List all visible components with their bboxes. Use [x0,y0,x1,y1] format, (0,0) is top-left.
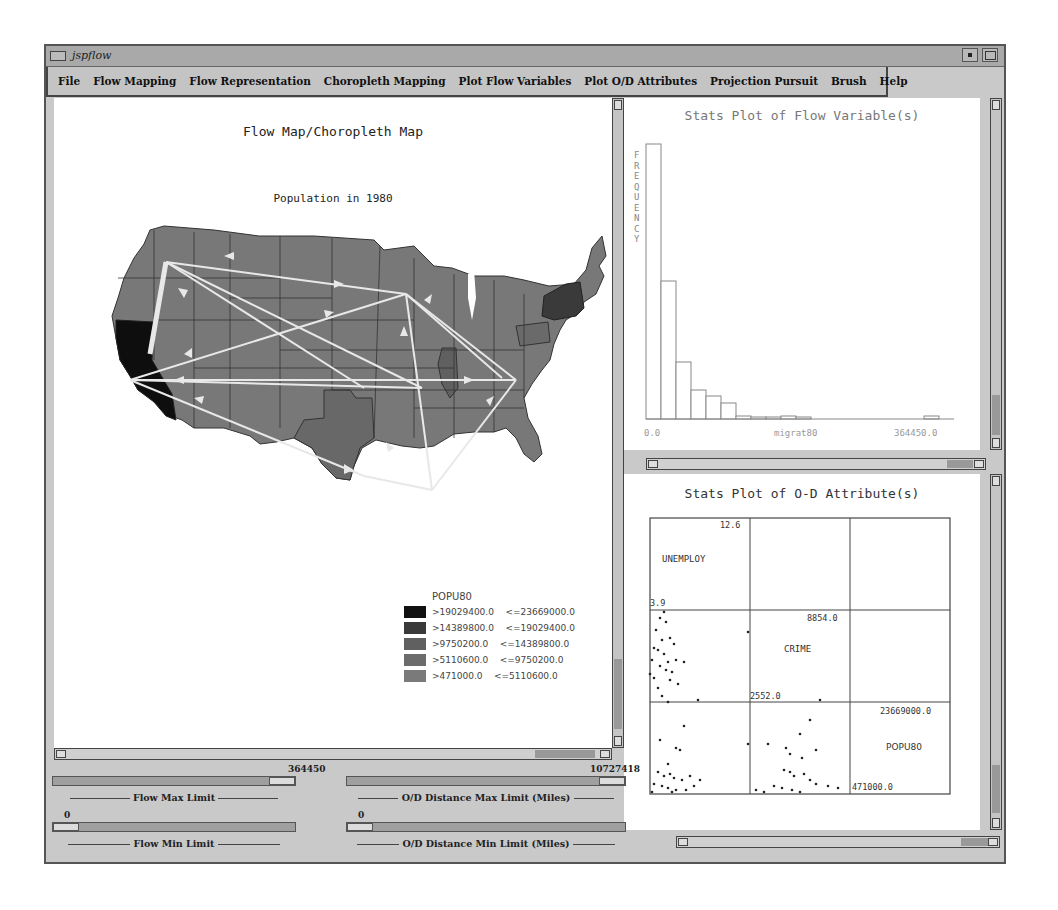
window-menu-icon[interactable] [50,51,66,61]
histogram-chart[interactable] [624,98,980,450]
window-title: jspflow [72,49,111,62]
scatter-vertical-scrollbar[interactable] [990,474,1002,830]
slider-thumb[interactable] [599,777,625,785]
scroll-left-arrow[interactable] [56,750,66,758]
histogram-x-min: 0.0 [644,428,660,438]
var-label-unemploy: UNEMPLOY [662,554,705,564]
legend-range: >14389800.0 <=19029400.0 [432,623,575,633]
flow-min-label: Flow Min Limit [52,838,296,849]
scroll-up-arrow[interactable] [614,100,622,110]
menu-bar: File Flow Mapping Flow Representation Ch… [46,67,888,97]
legend-title: POPU80 [432,591,575,602]
scroll-right-arrow[interactable] [600,750,610,758]
histogram-vertical-scrollbar[interactable] [990,98,1002,450]
app-window: jspflow File Flow Mapping Flow Represent… [44,44,1006,864]
menu-plot-od-attributes[interactable]: Plot O/D Attributes [584,75,697,87]
flow-max-slider[interactable] [52,776,296,786]
legend-swatch [404,606,426,618]
distance-min-label: O/D Distance Min Limit (Miles) [346,838,626,849]
flow-max-value: 364450 [288,764,326,774]
legend-range: >5110600.0 <=9750200.0 [432,655,563,665]
crime-max: 8854.0 [807,613,838,623]
slider-thumb[interactable] [269,777,295,785]
map-vertical-scrollbar[interactable] [612,98,624,748]
scroll-up-arrow[interactable] [992,476,1000,486]
legend-item: >19029400.0 <=23669000.0 [404,604,575,620]
var-label-crime: CRIME [784,644,811,654]
slider-thumb[interactable] [53,823,79,831]
scroll-thumb[interactable] [614,659,622,729]
scroll-thumb[interactable] [992,765,1000,813]
legend-range: >19029400.0 <=23669000.0 [432,607,575,617]
histogram-horizontal-scrollbar[interactable] [646,458,986,470]
distance-min-slider[interactable] [346,822,626,832]
distance-max-label: O/D Distance Max Limit (Miles) [346,792,626,803]
legend-item: >9750200.0 <=14389800.0 [404,636,575,652]
scroll-thumb[interactable] [535,750,595,758]
scroll-right-arrow[interactable] [974,460,984,468]
scroll-up-arrow[interactable] [992,100,1000,110]
legend-range: >9750200.0 <=14389800.0 [432,639,569,649]
menu-file[interactable]: File [58,75,80,87]
menu-flow-mapping[interactable]: Flow Mapping [93,75,176,87]
scroll-thumb[interactable] [947,460,973,468]
map-legend: POPU80 >19029400.0 <=23669000.0 >1438980… [404,591,575,684]
legend-range: >471000.0 <=5110600.0 [432,671,558,681]
scroll-down-arrow[interactable] [992,438,1000,448]
scroll-left-arrow[interactable] [648,460,658,468]
scroll-left-arrow[interactable] [678,838,688,846]
scatterplot-matrix-panel[interactable]: Stats Plot of O-D Attribute(s) [624,474,980,830]
histogram-x-label: migrat80 [774,428,817,438]
flow-min-value: 0 [64,810,70,820]
flow-map-panel[interactable]: Flow Map/Choropleth Map Population in 19… [54,98,612,748]
scroll-right-arrow[interactable] [988,838,998,846]
unemploy-max: 12.6 [720,520,740,530]
flow-min-slider[interactable] [52,822,296,832]
maximize-button[interactable] [982,48,998,62]
var-label-popu80: POPU80 [886,742,922,752]
flow-max-label: Flow Max Limit [52,792,296,803]
menu-flow-representation[interactable]: Flow Representation [189,75,310,87]
menu-plot-flow-variables[interactable]: Plot Flow Variables [459,75,572,87]
minimize-button[interactable] [962,48,978,62]
crime-min: 2552.0 [750,691,781,701]
distance-max-value: 10727418 [590,764,640,774]
scroll-down-arrow[interactable] [614,736,622,746]
legend-swatch [404,654,426,666]
us-choropleth-map[interactable] [54,98,612,578]
state-pennsylvania [516,322,550,346]
popu-min: 471000.0 [852,782,893,792]
histogram-panel[interactable]: Stats Plot of Flow Variable(s) FREQUENCY… [624,98,980,450]
menu-projection-pursuit[interactable]: Projection Pursuit [710,75,818,87]
legend-item: >14389800.0 <=19029400.0 [404,620,575,636]
legend-swatch [404,638,426,650]
menu-brush[interactable]: Brush [831,75,867,87]
distance-min-value: 0 [358,810,364,820]
unemploy-min: 3.9 [650,598,665,608]
histogram-x-max: 364450.0 [894,428,937,438]
filter-sliders: 364450 Flow Max Limit 0 Flow Min Limit 1… [52,762,624,862]
map-horizontal-scrollbar[interactable] [54,748,612,760]
legend-swatch [404,622,426,634]
menu-help[interactable]: Help [880,75,908,87]
scroll-thumb[interactable] [992,395,1000,435]
legend-item: >471000.0 <=5110600.0 [404,668,575,684]
slider-thumb[interactable] [347,823,373,831]
scroll-down-arrow[interactable] [992,818,1000,828]
popu-max: 23669000.0 [880,706,931,716]
scroll-thumb[interactable] [961,838,989,846]
scatter-horizontal-scrollbar[interactable] [676,836,1000,848]
menu-choropleth-mapping[interactable]: Choropleth Mapping [324,75,446,87]
distance-max-slider[interactable] [346,776,626,786]
legend-swatch [404,670,426,682]
legend-item: >5110600.0 <=9750200.0 [404,652,575,668]
title-bar: jspflow [46,46,1004,67]
